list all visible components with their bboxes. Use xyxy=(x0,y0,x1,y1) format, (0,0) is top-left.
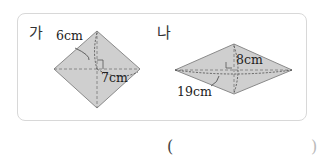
measure-ga-6cm: 6cm xyxy=(56,28,83,43)
measure-ga-7cm: 7cm xyxy=(101,70,128,85)
answer-close-paren: ) xyxy=(311,137,317,156)
answer-blank[interactable] xyxy=(176,138,306,158)
measure-na-19cm: 19cm xyxy=(177,84,212,99)
rhombus-na: 8cm 19cm xyxy=(175,44,292,99)
measure-na-8cm: 8cm xyxy=(236,52,263,67)
rhombus-ga: 6cm 7cm xyxy=(54,28,140,108)
answer-open-paren: ( xyxy=(167,137,173,156)
